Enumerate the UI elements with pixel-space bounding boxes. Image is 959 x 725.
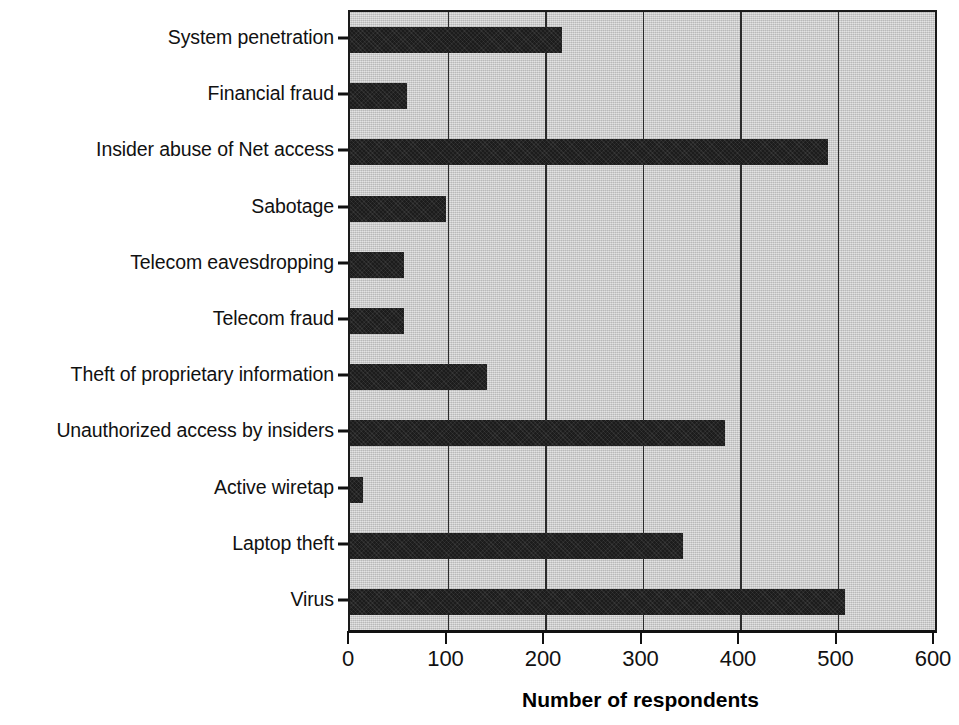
y-axis-tick [338, 37, 348, 40]
y-axis-tick [338, 374, 348, 377]
x-axis-tick-label: 400 [720, 648, 757, 670]
category-label: System penetration [0, 28, 334, 48]
y-axis-tick [338, 598, 348, 601]
bar [350, 364, 487, 390]
y-axis-tick [338, 149, 348, 152]
y-axis-tick [338, 93, 348, 96]
x-axis-tick-label: 500 [817, 648, 854, 670]
category-label: Unauthorized access by insiders [0, 422, 334, 442]
bar [350, 196, 446, 222]
bar [350, 308, 404, 334]
category-label: Sabotage [0, 197, 334, 217]
x-axis-tick [445, 631, 447, 644]
bar [350, 83, 407, 109]
category-label-column: System penetrationFinancial fraudInsider… [0, 10, 334, 628]
bar [350, 252, 404, 278]
y-axis-tick [338, 205, 348, 208]
category-label: Active wiretap [0, 478, 334, 498]
y-axis-tick [338, 318, 348, 321]
category-label: Theft of proprietary information [0, 365, 334, 385]
bar-chart: System penetrationFinancial fraudInsider… [0, 0, 959, 725]
bar [350, 420, 725, 446]
x-axis-tick [542, 631, 544, 644]
x-axis-tick-label: 600 [915, 648, 952, 670]
x-axis-tick [737, 631, 739, 644]
gridline-400 [740, 12, 742, 630]
x-axis-tick [932, 631, 934, 644]
x-axis-tick-label: 300 [622, 648, 659, 670]
category-label: Insider abuse of Net access [0, 141, 334, 161]
gridline-500 [838, 12, 840, 630]
y-axis-tick [338, 486, 348, 489]
bar [350, 589, 845, 615]
bar [350, 27, 562, 53]
category-label: Financial fraud [0, 85, 334, 105]
bar [350, 139, 828, 165]
category-label: Telecom fraud [0, 309, 334, 329]
x-axis-tick [347, 631, 349, 644]
bar [350, 477, 363, 503]
category-label: Telecom eavesdropping [0, 253, 334, 273]
x-axis-tick [835, 631, 837, 644]
plot-area [348, 10, 937, 633]
y-axis-tick [338, 430, 348, 433]
y-axis-tick [338, 261, 348, 264]
x-axis-tick-label: 100 [427, 648, 464, 670]
y-axis-tick [338, 542, 348, 545]
x-axis-tick-label: 0 [342, 648, 354, 670]
category-label: Laptop theft [0, 534, 334, 554]
bar [350, 533, 683, 559]
x-axis-title: Number of respondents [348, 688, 933, 712]
x-axis-tick-label: 200 [525, 648, 562, 670]
x-axis-tick [640, 631, 642, 644]
category-label: Virus [0, 590, 334, 610]
